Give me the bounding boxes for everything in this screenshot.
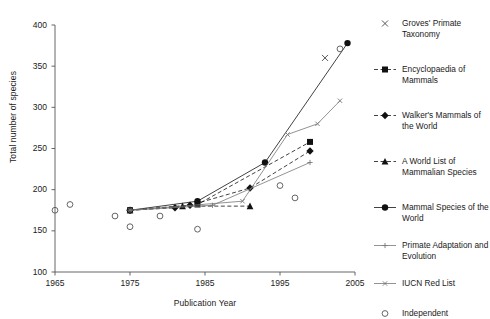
legend-item-label: IUCN Red List	[400, 278, 455, 289]
open-circle-icon	[372, 308, 400, 319]
x-axis-title: Publication Year	[130, 298, 280, 308]
filled-diamond-icon	[372, 110, 400, 121]
legend-item[interactable]: Encyclopaedia of Mammals	[372, 64, 490, 85]
x-tick-label: 1965	[35, 278, 75, 288]
y-tick-label: 100	[17, 267, 47, 277]
legend-item[interactable]: Groves' Primate Taxonomy	[372, 18, 490, 39]
legend-item-label: Groves' Primate Taxonomy	[400, 18, 490, 39]
chart-series	[127, 40, 351, 214]
y-axis-title: Total number of species	[8, 52, 18, 182]
chart-series	[127, 160, 312, 213]
x-tick-label: 2005	[335, 278, 375, 288]
filled-square-icon	[372, 64, 400, 75]
series-layer	[52, 40, 351, 232]
chart-series	[322, 55, 328, 61]
small-cross-icon	[372, 278, 400, 289]
legend-item-label: Walker's Mammals of the World	[400, 110, 490, 131]
legend-item-label: Independent	[400, 308, 448, 319]
legend-item[interactable]: IUCN Red List	[372, 278, 455, 289]
legend-item[interactable]: Mammal Species of the World	[372, 202, 490, 223]
legend-item[interactable]: A World List of Mammalian Species	[372, 156, 490, 177]
x-tick-label: 1985	[185, 278, 225, 288]
plus-icon	[372, 240, 400, 251]
legend-item-label: A World List of Mammalian Species	[400, 156, 490, 177]
legend-item-label: Primate Adaptation and Evolution	[400, 240, 490, 261]
legend-item[interactable]: Walker's Mammals of the World	[372, 110, 490, 131]
x-tick-label: 1975	[110, 278, 150, 288]
legend-item-label: Encyclopaedia of Mammals	[400, 64, 490, 85]
y-tick-label: 300	[17, 102, 47, 112]
cross-icon	[372, 18, 400, 29]
legend-item[interactable]: Primate Adaptation and Evolution	[372, 240, 490, 261]
y-tick-label: 200	[17, 184, 47, 194]
y-tick-label: 350	[17, 61, 47, 71]
y-tick-label: 250	[17, 143, 47, 153]
legend-item[interactable]: Independent	[372, 308, 448, 319]
x-tick-label: 1995	[260, 278, 300, 288]
y-tick-label: 150	[17, 225, 47, 235]
chart-series	[126, 147, 313, 214]
legend-item-label: Mammal Species of the World	[400, 202, 490, 223]
y-tick-label: 400	[17, 20, 47, 30]
filled-circle-icon	[372, 202, 400, 213]
filled-triangle-icon	[372, 156, 400, 167]
chart-figure: Total number of species Publication Year…	[0, 0, 490, 319]
